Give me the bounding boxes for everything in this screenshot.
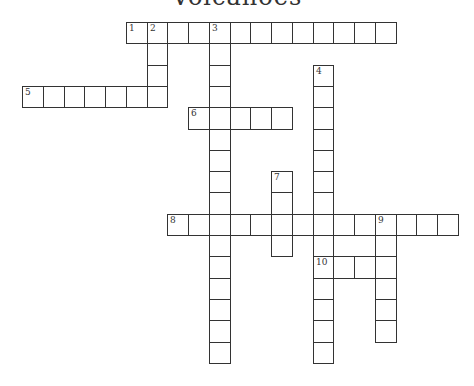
crossword-cell[interactable]	[416, 214, 438, 236]
crossword-cell[interactable]	[250, 214, 272, 236]
crossword-cell[interactable]	[209, 342, 231, 364]
crossword-cell[interactable]	[313, 278, 334, 300]
crossword-cell[interactable]: 6	[188, 107, 210, 130]
crossword-cell[interactable]	[209, 320, 231, 343]
crossword-cell[interactable]	[230, 22, 251, 44]
crossword-cell[interactable]	[209, 192, 231, 215]
crossword-cell[interactable]	[250, 22, 272, 44]
crossword-cell[interactable]	[396, 214, 417, 236]
crossword-cell[interactable]	[271, 192, 293, 215]
crossword-cell[interactable]	[354, 256, 376, 279]
clue-number: 8	[170, 216, 176, 225]
crossword-cell[interactable]	[147, 65, 168, 87]
clue-number: 4	[316, 67, 322, 76]
crossword-cell[interactable]	[209, 150, 231, 172]
crossword-cell[interactable]	[147, 43, 168, 66]
crossword-cell[interactable]	[167, 22, 189, 44]
crossword-cell[interactable]	[333, 22, 355, 44]
crossword-cell[interactable]	[209, 256, 231, 279]
crossword-cell[interactable]	[375, 320, 397, 343]
crossword-cell[interactable]	[292, 22, 314, 44]
crossword-cell[interactable]	[250, 107, 272, 130]
crossword-cell[interactable]	[209, 235, 231, 257]
crossword-cell[interactable]	[230, 214, 251, 236]
crossword-cell[interactable]	[209, 107, 231, 130]
crossword-cell[interactable]	[209, 171, 231, 193]
crossword-cell[interactable]	[313, 320, 334, 343]
crossword-cell[interactable]	[333, 214, 355, 236]
clue-number: 2	[150, 24, 156, 33]
crossword-cell[interactable]	[147, 86, 168, 108]
crossword-cell[interactable]	[375, 299, 397, 321]
crossword-cell[interactable]	[188, 214, 210, 236]
crossword-cell[interactable]: 8	[167, 214, 189, 236]
crossword-cell[interactable]: 10	[313, 256, 334, 279]
crossword-cell[interactable]	[437, 214, 459, 236]
clue-number: 9	[378, 216, 384, 225]
crossword-cell[interactable]	[271, 22, 293, 44]
crossword-cell[interactable]	[375, 278, 397, 300]
crossword-cell[interactable]	[333, 256, 355, 279]
clue-number: 10	[316, 258, 327, 267]
crossword-cell[interactable]	[313, 214, 334, 236]
crossword-cell[interactable]	[84, 86, 106, 108]
crossword-cell[interactable]	[375, 235, 397, 257]
crossword-cell[interactable]	[209, 86, 231, 108]
crossword-cell[interactable]	[313, 192, 334, 215]
crossword-cell[interactable]	[313, 107, 334, 130]
crossword-cell[interactable]	[105, 86, 127, 108]
crossword-cell[interactable]: 2	[147, 22, 168, 44]
crossword-cell[interactable]	[313, 299, 334, 321]
crossword-cell[interactable]: 9	[375, 214, 397, 236]
clue-number: 6	[191, 109, 197, 118]
crossword-cell[interactable]: 5	[22, 86, 44, 108]
crossword-cell[interactable]	[209, 65, 231, 87]
crossword-cell[interactable]	[292, 214, 314, 236]
clue-number: 5	[25, 88, 31, 97]
crossword-cell[interactable]	[188, 22, 210, 44]
crossword-cell[interactable]	[313, 86, 334, 108]
crossword-cell[interactable]	[209, 299, 231, 321]
crossword-cell[interactable]: 7	[271, 171, 293, 193]
crossword-cell[interactable]	[209, 43, 231, 66]
crossword-cell[interactable]: 3	[209, 22, 231, 44]
crossword-cell[interactable]	[313, 22, 334, 44]
crossword-cell[interactable]	[375, 256, 397, 279]
crossword-cell[interactable]	[64, 86, 85, 108]
crossword-cell[interactable]	[375, 22, 397, 44]
crossword-cell[interactable]	[209, 214, 231, 236]
crossword-cell[interactable]	[271, 235, 293, 257]
crossword-cell[interactable]	[354, 214, 376, 236]
crossword-grid: 12341056789	[0, 0, 474, 386]
clue-number: 7	[274, 173, 280, 182]
crossword-cell[interactable]	[313, 129, 334, 151]
crossword-cell[interactable]	[271, 107, 293, 130]
crossword-cell[interactable]	[271, 214, 293, 236]
crossword-cell[interactable]	[230, 107, 251, 130]
crossword-cell[interactable]	[313, 150, 334, 172]
crossword-cell[interactable]: 4	[313, 65, 334, 87]
crossword-cell[interactable]	[313, 235, 334, 257]
crossword-cell[interactable]	[313, 171, 334, 193]
crossword-cell[interactable]	[209, 129, 231, 151]
crossword-cell[interactable]	[43, 86, 65, 108]
clue-number: 1	[129, 24, 135, 33]
crossword-cell[interactable]	[126, 86, 148, 108]
clue-number: 3	[212, 24, 218, 33]
crossword-cell[interactable]: 1	[126, 22, 148, 44]
crossword-cell[interactable]	[209, 278, 231, 300]
crossword-cell[interactable]	[313, 342, 334, 364]
crossword-cell[interactable]	[354, 22, 376, 44]
